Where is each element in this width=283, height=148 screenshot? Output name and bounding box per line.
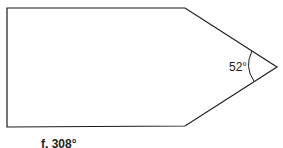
angle-label: 52° bbox=[229, 60, 247, 74]
pentagon-diagram bbox=[0, 0, 283, 148]
angle-arc bbox=[248, 51, 254, 81]
answer-option-caption: f. 308° bbox=[41, 137, 76, 148]
